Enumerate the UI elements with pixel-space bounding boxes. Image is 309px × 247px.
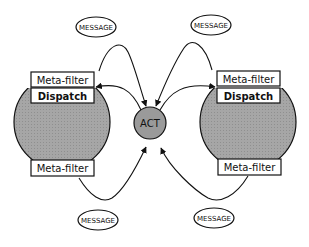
left-dispatch: Dispatch — [31, 88, 94, 103]
left-top-meta-filter: Meta-filter — [31, 72, 94, 87]
arrow-left-filter-to-act — [99, 45, 146, 106]
right-top-meta-filter: Meta-filter — [217, 71, 280, 86]
svg-text:MESSAGE: MESSAGE — [197, 215, 231, 223]
right-bottom-meta-filter-label: Meta-filter — [224, 162, 277, 173]
message-top-left: MESSAGE — [76, 17, 116, 37]
right-dispatch-label: Dispatch — [224, 91, 273, 102]
message-top-right: MESSAGE — [191, 15, 231, 35]
right-top-meta-filter-label: Meta-filter — [223, 74, 276, 85]
message-bottom-right: MESSAGE — [194, 208, 234, 228]
svg-text:MESSAGE: MESSAGE — [81, 217, 115, 225]
left-top-meta-filter-label: Meta-filter — [37, 75, 90, 86]
left-bottom-meta-filter: Meta-filter — [31, 160, 94, 176]
left-dispatch-label: Dispatch — [38, 91, 87, 102]
right-bottom-meta-filter: Meta-filter — [218, 159, 281, 175]
right-dispatch: Dispatch — [217, 88, 280, 103]
act-node: ACT — [134, 107, 166, 139]
svg-text:MESSAGE: MESSAGE — [194, 22, 228, 30]
message-bottom-left: MESSAGE — [78, 210, 118, 230]
act-label: ACT — [140, 118, 161, 129]
diagram-canvas: Meta-filter Dispatch Meta-filter Meta-fi… — [0, 0, 309, 247]
left-bottom-meta-filter-label: Meta-filter — [37, 163, 90, 174]
svg-text:MESSAGE: MESSAGE — [79, 24, 113, 32]
arrow-right-filter-to-act — [156, 43, 212, 106]
